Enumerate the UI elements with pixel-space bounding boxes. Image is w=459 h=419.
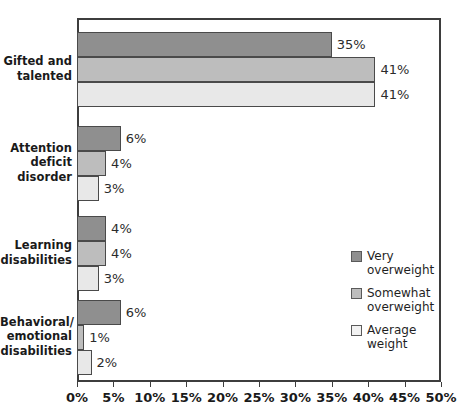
category-label-line: talented bbox=[0, 69, 72, 84]
x-axis-tick bbox=[295, 382, 296, 387]
x-axis-tick-label: 25% bbox=[243, 390, 274, 405]
x-axis-tick bbox=[77, 382, 78, 387]
category-label-line: disabilities bbox=[0, 344, 72, 359]
bar-value-label: 3% bbox=[104, 176, 125, 201]
bar bbox=[77, 325, 84, 350]
legend-label: Somewhat overweight bbox=[367, 286, 434, 314]
category-label-line: Attention bbox=[0, 141, 72, 156]
x-axis-tick-label: 40% bbox=[353, 390, 384, 405]
bar-value-label: 41% bbox=[380, 57, 409, 82]
legend: Very overweightSomewhat overweightAverag… bbox=[351, 249, 434, 360]
bar-value-label: 4% bbox=[111, 216, 132, 241]
legend-swatch bbox=[351, 325, 362, 336]
category-label: Learningdisabilities bbox=[0, 238, 72, 267]
category-label-line: disabilities bbox=[0, 253, 72, 268]
legend-item[interactable]: Average weight bbox=[351, 323, 434, 351]
x-axis-tick-label: 35% bbox=[316, 390, 347, 405]
category-label-line: Behavioral/ bbox=[0, 315, 72, 330]
bar-value-label: 2% bbox=[97, 350, 118, 375]
bar bbox=[77, 216, 106, 241]
x-axis-tick bbox=[150, 382, 151, 387]
bar bbox=[77, 151, 106, 176]
category-label-line: disorder bbox=[0, 170, 72, 185]
x-axis-tick-label: 5% bbox=[102, 390, 124, 405]
category-label-line: Learning bbox=[0, 238, 72, 253]
x-axis-tick bbox=[368, 382, 369, 387]
x-axis-tick-label: 15% bbox=[171, 390, 202, 405]
x-axis-tick bbox=[405, 382, 406, 387]
x-axis-tick bbox=[332, 382, 333, 387]
category-label-line: Gifted and bbox=[0, 54, 72, 69]
bar bbox=[77, 241, 106, 266]
x-axis-tick-label: 45% bbox=[389, 390, 420, 405]
legend-item[interactable]: Very overweight bbox=[351, 249, 434, 277]
x-axis-tick bbox=[186, 382, 187, 387]
x-axis-tick-label: 30% bbox=[280, 390, 311, 405]
bar bbox=[77, 300, 121, 325]
x-axis-tick-label: 0% bbox=[66, 390, 88, 405]
x-axis-tick-label: 50% bbox=[425, 390, 456, 405]
bar bbox=[77, 266, 99, 291]
category-label: Gifted andtalented bbox=[0, 54, 72, 83]
bar bbox=[77, 176, 99, 201]
bar bbox=[77, 350, 92, 375]
legend-swatch bbox=[351, 251, 362, 262]
x-axis-tick bbox=[223, 382, 224, 387]
bar-value-label: 4% bbox=[111, 151, 132, 176]
legend-label: Average weight bbox=[367, 323, 416, 351]
bar bbox=[77, 82, 375, 107]
category-label-line: emotional bbox=[0, 329, 72, 344]
bar bbox=[77, 126, 121, 151]
bar-value-label: 4% bbox=[111, 241, 132, 266]
bar-value-label: 1% bbox=[89, 325, 110, 350]
legend-label: Very overweight bbox=[367, 249, 434, 277]
bar-value-label: 35% bbox=[337, 32, 366, 57]
category-label: Attentiondeficitdisorder bbox=[0, 141, 72, 185]
x-axis-tick-label: 10% bbox=[134, 390, 165, 405]
category-label: Behavioral/emotionaldisabilities bbox=[0, 315, 72, 359]
x-axis-tick bbox=[259, 382, 260, 387]
bar-value-label: 6% bbox=[126, 126, 147, 151]
bar bbox=[77, 32, 332, 57]
legend-item[interactable]: Somewhat overweight bbox=[351, 286, 434, 314]
bar-value-label: 41% bbox=[380, 82, 409, 107]
category-label-line: deficit bbox=[0, 155, 72, 170]
bar-value-label: 6% bbox=[126, 300, 147, 325]
legend-swatch bbox=[351, 288, 362, 299]
x-axis-tick bbox=[441, 382, 442, 387]
bar-value-label: 3% bbox=[104, 266, 125, 291]
bar bbox=[77, 57, 375, 82]
x-axis-tick-label: 20% bbox=[207, 390, 238, 405]
bar-chart: Gifted andtalentedAttentiondeficitdisord… bbox=[0, 0, 459, 419]
x-axis-tick bbox=[113, 382, 114, 387]
